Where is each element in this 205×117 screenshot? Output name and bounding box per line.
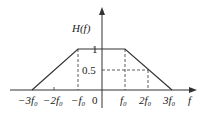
y-axis-arrow-icon bbox=[99, 7, 105, 15]
x-tick-0: 0 bbox=[92, 94, 98, 106]
y-tick-0-5: 0.5 bbox=[82, 64, 96, 76]
x-tick-3f0: 3f₀ bbox=[162, 94, 176, 106]
y-tick-1: 1 bbox=[92, 43, 98, 55]
x-tick-minus-f0: −f₀ bbox=[71, 94, 85, 106]
x-axis-arrow-icon bbox=[189, 87, 197, 93]
x-axis-label: f bbox=[188, 94, 193, 106]
frequency-response-diagram: H(f) 1 0.5 −3f₀ −2f₀ −f₀ 0 f₀ 2f₀ 3f₀ f bbox=[0, 0, 205, 117]
x-tick-minus-2f0: −2f₀ bbox=[43, 94, 63, 106]
x-tick-2f0: 2f₀ bbox=[139, 94, 152, 106]
x-tick-minus-3f0: −3f₀ bbox=[18, 94, 38, 106]
y-axis-label: H(f) bbox=[71, 22, 91, 35]
x-tick-f0: f₀ bbox=[120, 94, 127, 106]
